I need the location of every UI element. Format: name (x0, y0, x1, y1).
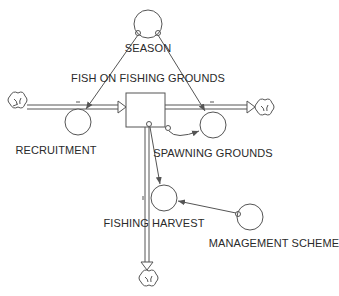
fishing-harvest-flow-node[interactable] (151, 185, 177, 211)
source-cloud-icon (8, 92, 27, 108)
stock-label: FISH ON FISHING GROUNDS (71, 72, 225, 84)
spawning-grounds-flow-node[interactable] (200, 112, 226, 138)
recruitment-flow-node[interactable] (65, 109, 91, 135)
spawning-grounds-label: SPAWNING GROUNDS (153, 147, 273, 159)
connector-management-harvest (178, 201, 236, 213)
stock-box[interactable] (126, 93, 165, 127)
recruitment-label: RECRUITMENT (15, 144, 96, 156)
sink-cloud-right-icon (255, 99, 274, 115)
management-scheme-node[interactable] (237, 204, 263, 230)
season-node[interactable] (134, 10, 162, 38)
season-label: SEASON (125, 42, 171, 54)
management-scheme-label: MANAGEMENT SCHEME (209, 237, 339, 249)
sink-cloud-bottom-icon (139, 270, 158, 286)
outflow-pipe-right (165, 101, 255, 113)
connector-stock-spawning (169, 131, 199, 136)
fishing-harvest-label: FISHING HARVEST (104, 217, 205, 229)
